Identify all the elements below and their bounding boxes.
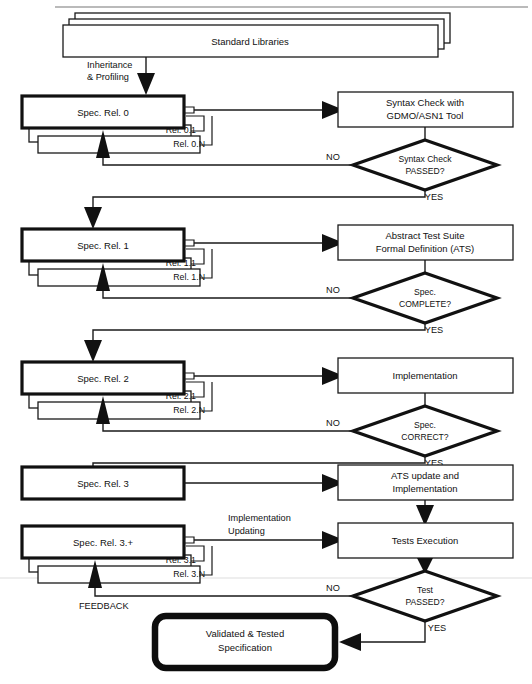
decision-test-label-line2: PASSED? bbox=[405, 597, 444, 607]
edge-label-no-2: NO bbox=[326, 285, 340, 295]
spec-rel-3-plus-label: Spec. Rel. 3.+ bbox=[73, 537, 133, 548]
implementation-label: Implementation bbox=[393, 370, 458, 381]
edge-spec0-to-syntaxcheck bbox=[194, 101, 344, 119]
spec-rel-0-group: Rel. 0.1 Rel. 0.N Spec. Rel. 0 bbox=[22, 96, 212, 153]
decision-correct-label-line1: Spec. bbox=[414, 420, 436, 430]
decision-test-label-line1: Test bbox=[417, 585, 433, 595]
spec-rel-2-entry-arrowhead bbox=[84, 340, 102, 362]
ats-update-label-line2: Implementation bbox=[393, 483, 458, 494]
spec-rel-2-subN-label: Rel. 2.N bbox=[173, 405, 205, 415]
syntax-check-label-line2: GDMO/ASN1 Tool bbox=[387, 110, 464, 121]
validated-specification-label-line2: Specification bbox=[218, 642, 272, 653]
spec-rel-3-plus-group: Rel. 3.1 Rel. 3.N Spec. Rel. 3.+ bbox=[22, 526, 212, 583]
validated-arrowhead bbox=[339, 633, 361, 651]
spec-rel-1-entry-arrowhead bbox=[84, 207, 102, 229]
edge-complete-yes: YES bbox=[84, 323, 443, 362]
edge-label-no-3: NO bbox=[326, 418, 340, 428]
ats-update-node: ATS update and Implementation bbox=[338, 465, 513, 500]
standard-libraries-stack: Standard Libraries bbox=[63, 13, 450, 57]
ats-label-line1: Abstract Test Suite bbox=[385, 230, 464, 241]
edge-label-yes-2: YES bbox=[425, 325, 443, 335]
decision-spec-complete-diamond bbox=[353, 273, 497, 323]
decision-syntax-passed: Syntax Check PASSED? bbox=[353, 140, 497, 190]
spec-rel-0-label: Spec. Rel. 0 bbox=[77, 107, 129, 118]
spec-rel-3-subN-label: Rel. 3.N bbox=[173, 569, 205, 579]
implementation-node: Implementation bbox=[338, 358, 513, 393]
edge-spec1-to-ats bbox=[194, 234, 344, 252]
flowchart-diagram: Standard Libraries Inheritance & Profili… bbox=[0, 0, 532, 684]
inheritance-profiling-edge: Inheritance & Profiling bbox=[87, 57, 155, 95]
edge-spec2-to-implementation bbox=[194, 367, 344, 385]
inheritance-label-line2: & Profiling bbox=[87, 72, 129, 82]
spec-rel-1-subN-label: Rel. 1.N bbox=[173, 272, 205, 282]
spec-rel-3-group: Spec. Rel. 3 bbox=[22, 467, 184, 499]
edge-label-yes-1: YES bbox=[425, 192, 443, 202]
decision-complete-label-line1: Spec. bbox=[414, 287, 436, 297]
spec-rel-2-label: Spec. Rel. 2 bbox=[77, 373, 129, 384]
syntax-check-label-line1: Syntax Check with bbox=[386, 97, 464, 108]
edge-label-yes-4: YES bbox=[428, 623, 446, 633]
feedback-label: FEEDBACK bbox=[79, 601, 129, 611]
decision-syntax-label-line2: PASSED? bbox=[405, 166, 444, 176]
implementation-updating-label-line1: Implementation bbox=[228, 513, 291, 523]
edge-spec3-to-atsupdate bbox=[184, 474, 344, 492]
decision-spec-complete: Spec. COMPLETE? bbox=[353, 273, 497, 323]
edge-spec3plus-to-tests: Implementation Updating bbox=[194, 513, 344, 549]
flowchart-canvas: Standard Libraries Inheritance & Profili… bbox=[0, 0, 532, 684]
edge-atsupdate-to-tests bbox=[416, 500, 434, 526]
standard-libraries-label: Standard Libraries bbox=[211, 36, 289, 47]
inheritance-label-line1: Inheritance bbox=[87, 60, 132, 70]
edge-label-no-4: NO bbox=[326, 583, 340, 593]
decision-complete-label-line2: COMPLETE? bbox=[399, 299, 451, 309]
spec-rel-3-label: Spec. Rel. 3 bbox=[77, 478, 129, 489]
decision-correct-label-line2: CORRECT? bbox=[401, 432, 448, 442]
ats-node: Abstract Test Suite Formal Definition (A… bbox=[338, 225, 513, 260]
spec-rel-0-subN-label: Rel. 0.N bbox=[173, 139, 205, 149]
spec-rel-1-label: Spec. Rel. 1 bbox=[77, 240, 129, 251]
spec-rel-1-group: Rel. 1.1 Rel. 1.N Spec. Rel. 1 bbox=[22, 229, 212, 286]
validated-specification-node: Validated & Tested Specification bbox=[155, 616, 335, 668]
implementation-updating-label-line2: Updating bbox=[228, 526, 265, 536]
edge-syntax-yes: YES bbox=[84, 190, 443, 229]
tests-execution-label: Tests Execution bbox=[392, 535, 459, 546]
decision-spec-correct-diamond bbox=[353, 406, 497, 456]
ats-label-line2: Formal Definition (ATS) bbox=[376, 243, 475, 254]
syntax-check-node: Syntax Check with GDMO/ASN1 Tool bbox=[338, 92, 513, 127]
validated-specification-label-line1: Validated & Tested bbox=[206, 628, 284, 639]
ats-update-label-line1: ATS update and bbox=[391, 470, 459, 481]
inheritance-arrowhead bbox=[137, 73, 155, 95]
spec-rel-2-group: Rel. 2.1 Rel. 2.N Spec. Rel. 2 bbox=[22, 362, 212, 419]
tests-execution-node: Tests Execution bbox=[338, 523, 513, 558]
decision-syntax-label-line1: Syntax Check bbox=[398, 154, 452, 164]
edge-label-no-1: NO bbox=[326, 152, 340, 162]
decision-syntax-passed-diamond bbox=[353, 140, 497, 190]
decision-spec-correct: Spec. CORRECT? bbox=[353, 406, 497, 456]
edge-test-yes-to-validated: YES bbox=[339, 621, 446, 651]
